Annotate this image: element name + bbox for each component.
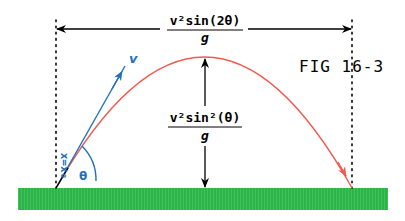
velocity-label: v [129,51,138,66]
height-formula-numerator: v²sin²(θ) [170,110,240,125]
height-formula-denominator: g [201,128,209,143]
position-label: x=x₀ [58,153,71,180]
trajectory-arrow [338,162,346,176]
range-formula-numerator: v²sin(2θ) [170,13,240,28]
projectile-diagram: v²sin(2θ) g v²sin²(θ) g v θ x=x₀ FIG 16-… [0,0,405,221]
velocity-arrowhead [112,75,120,89]
ground [18,188,388,210]
figure-label: FIG 16-3 [299,57,384,76]
angle-label: θ [79,169,87,183]
range-formula-denominator: g [201,30,209,45]
